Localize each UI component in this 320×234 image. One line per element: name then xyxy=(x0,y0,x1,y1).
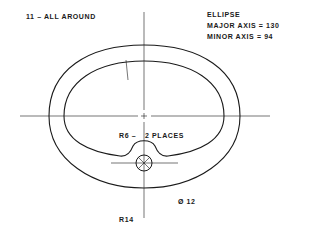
major-axis-label: MAJOR AXIS = 130 xyxy=(207,22,280,30)
ellipse-title-label: ELLIPSE xyxy=(207,11,240,19)
wall-thickness-label: 11 – ALL AROUND xyxy=(26,13,96,21)
minor-axis-label: MINOR AXIS = 94 xyxy=(207,33,273,41)
leader-wall-thickness-arrow xyxy=(126,60,128,80)
boss-radius-label: R14 xyxy=(119,216,134,224)
fillet-radius-label: R6 – xyxy=(119,132,136,140)
leader-ellipse xyxy=(180,15,205,49)
outer-ellipse xyxy=(49,45,240,188)
leader-wall-thickness xyxy=(112,17,122,46)
fillet-places-label: 2 PLACES xyxy=(145,132,184,140)
hole-diameter-label: Ø 12 xyxy=(178,198,196,206)
centerlines xyxy=(20,12,270,218)
